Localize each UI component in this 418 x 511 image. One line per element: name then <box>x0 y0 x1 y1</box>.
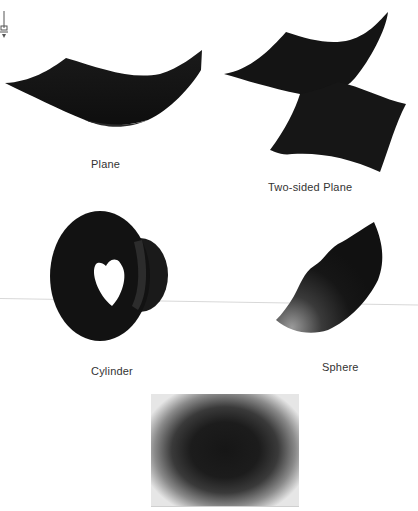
caption-sphere: Sphere <box>322 361 359 373</box>
two-sided-plane-surface <box>210 0 418 170</box>
caption-cylinder: Cylinder <box>91 365 133 377</box>
gradient-rectangle <box>151 394 299 507</box>
sphere-shape <box>210 210 418 360</box>
cylinder-shape <box>0 210 210 360</box>
caption-two-sided-plane: Two-sided Plane <box>268 181 352 193</box>
caption-plane: Plane <box>91 158 120 170</box>
pin-icon <box>0 8 12 40</box>
